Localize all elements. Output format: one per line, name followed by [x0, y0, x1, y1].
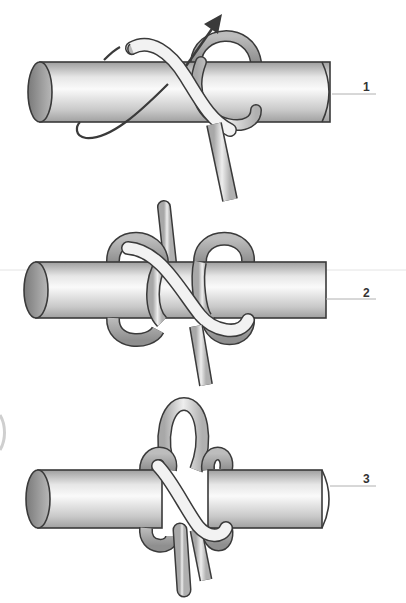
- step-1-illustration: [28, 14, 376, 200]
- pole-3-left: [38, 470, 162, 528]
- step-label-2: 2: [363, 286, 370, 300]
- step-2-illustration: [0, 207, 406, 385]
- knot-diagram: [0, 0, 406, 603]
- step-label-3: 3: [363, 472, 370, 486]
- step-3-illustration: [0, 404, 376, 590]
- pole-3-right: [208, 470, 322, 528]
- step-label-1: 1: [363, 80, 370, 94]
